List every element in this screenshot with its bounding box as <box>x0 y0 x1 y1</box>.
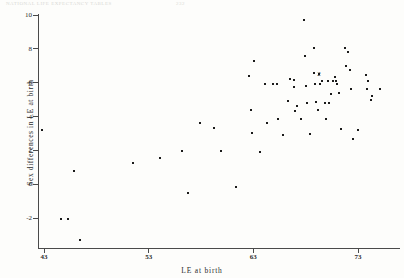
data-point <box>336 83 338 85</box>
data-point <box>266 122 268 124</box>
data-point <box>253 60 255 62</box>
x-tick-label-73: 73 <box>346 254 370 261</box>
data-point <box>371 95 373 97</box>
data-point <box>332 80 334 82</box>
data-point <box>300 118 302 120</box>
data-point <box>235 186 237 188</box>
data-point <box>344 47 346 49</box>
data-point <box>317 109 319 111</box>
data-point <box>370 99 372 101</box>
data-point <box>289 78 291 80</box>
data-point <box>159 157 161 159</box>
data-point <box>313 47 315 49</box>
data-point <box>132 162 134 164</box>
data-point <box>314 83 316 85</box>
y-tick-10 <box>33 15 38 16</box>
data-point <box>73 170 75 172</box>
data-point <box>303 19 305 21</box>
data-point <box>272 83 274 85</box>
data-point <box>259 151 261 153</box>
data-point <box>248 75 250 77</box>
data-point <box>309 133 311 135</box>
x-axis-spine <box>38 248 400 249</box>
x-tick-label-43: 43 <box>32 254 56 261</box>
data-point <box>352 138 354 140</box>
bleed-text-page-number: 232 <box>176 1 185 6</box>
data-point <box>325 118 327 120</box>
x-tick-label-63: 63 <box>241 254 265 261</box>
data-point <box>345 65 347 67</box>
data-point <box>60 218 62 220</box>
data-point <box>79 239 81 241</box>
data-point <box>305 85 307 87</box>
y-axis-spine <box>38 14 39 249</box>
data-point <box>294 110 296 112</box>
data-point <box>250 109 252 111</box>
y-axis-title: Sex differences in LE at birth <box>26 43 35 223</box>
data-point <box>306 102 308 104</box>
data-point <box>379 88 381 90</box>
data-point <box>313 72 315 74</box>
data-point <box>338 92 340 94</box>
bleed-text-left: NATIONAL LIFE EXPECTANCY TABLES <box>6 1 112 6</box>
data-point <box>213 127 215 129</box>
data-point <box>366 88 368 90</box>
data-point <box>334 76 336 78</box>
y-tick-label-10: 10 <box>6 12 32 19</box>
data-point <box>327 80 329 82</box>
data-point <box>340 128 342 130</box>
data-point <box>199 122 201 124</box>
data-point <box>328 102 330 104</box>
data-point <box>349 69 351 71</box>
data-point <box>304 55 306 57</box>
data-point <box>347 51 349 53</box>
data-point <box>277 118 279 120</box>
data-point <box>67 218 69 220</box>
data-point <box>296 105 298 107</box>
data-point <box>282 134 284 136</box>
data-point <box>187 192 189 194</box>
scatter-plot-figure: NATIONAL LIFE EXPECTANCY TABLES 232 -202… <box>0 0 404 278</box>
x-axis-title: LE at birth <box>0 266 404 275</box>
data-point <box>330 93 332 95</box>
data-point <box>315 101 317 103</box>
x-tick-label-53: 53 <box>137 254 161 261</box>
data-point <box>367 80 369 82</box>
data-point <box>220 150 222 152</box>
overlap-count-label: 2 <box>317 71 321 78</box>
data-point <box>365 74 367 76</box>
data-point <box>41 129 43 131</box>
data-point <box>181 150 183 152</box>
data-point <box>319 83 321 85</box>
data-point <box>293 86 295 88</box>
data-point <box>287 100 289 102</box>
data-point <box>251 132 253 134</box>
data-point <box>321 80 323 82</box>
page-bleed-through: NATIONAL LIFE EXPECTANCY TABLES 232 <box>0 0 404 9</box>
data-point <box>324 102 326 104</box>
data-point <box>276 83 278 85</box>
data-point <box>350 88 352 90</box>
data-point <box>357 129 359 131</box>
data-point <box>264 83 266 85</box>
data-point <box>293 79 295 81</box>
